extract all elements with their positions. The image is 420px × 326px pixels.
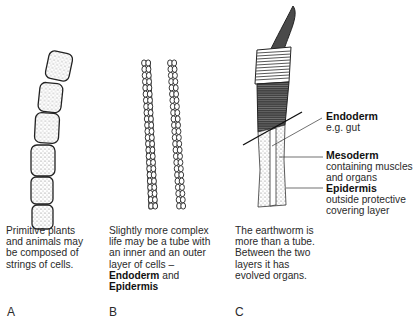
caption-line: more than a tube. (235, 236, 315, 247)
caption-line: life may be a tube with (109, 236, 210, 247)
earthworm-icon (243, 6, 323, 207)
caption-b: Slightly more complex life may be a tube… (109, 225, 210, 292)
caption-line: The earthworm is (235, 225, 315, 236)
panel-letter-b: B (109, 305, 117, 319)
label-mesoderm: Mesoderm containing muscles and organs (326, 150, 413, 183)
caption-line: evolved organs. (235, 270, 315, 281)
tube-right-cells (168, 60, 186, 209)
label-title: Endoderm (326, 111, 378, 122)
term-endoderm: Endoderm (109, 270, 159, 281)
label-desc: e.g. gut (326, 122, 378, 133)
caption-line: Endoderm and (109, 270, 210, 281)
caption-a: Primitive plants and animals may be comp… (6, 225, 83, 270)
caption-line: Slightly more complex (109, 225, 210, 236)
label-title: Epidermis (326, 183, 406, 194)
caption-line: Between the two (235, 247, 315, 258)
caption-line: layers it has (235, 259, 315, 270)
caption-line: layer of cells – (109, 259, 210, 270)
cell-string-icon (31, 50, 74, 229)
label-desc: covering layer (326, 205, 406, 216)
caption-line: an inner and an outer (109, 247, 210, 258)
caption-line: strings of cells. (6, 259, 83, 270)
panel-letter-a: A (7, 305, 15, 319)
caption-line: be composed of (6, 247, 83, 258)
label-epidermis: Epidermis outside protective covering la… (326, 183, 406, 216)
term-epidermis: Epidermis (109, 281, 158, 292)
tube-left-cells (142, 60, 158, 209)
label-desc: outside protective (326, 194, 406, 205)
label-title: Mesoderm (326, 150, 413, 161)
caption-line: Epidermis (109, 281, 210, 292)
caption-conjunction: and (159, 270, 179, 281)
panel-letter-c: C (235, 305, 244, 319)
caption-line: Primitive plants (6, 225, 83, 236)
caption-c: The earthworm is more than a tube. Betwe… (235, 225, 315, 281)
caption-line: and animals may (6, 236, 83, 247)
label-desc: containing muscles (326, 161, 413, 172)
label-endoderm: Endoderm e.g. gut (326, 111, 378, 133)
